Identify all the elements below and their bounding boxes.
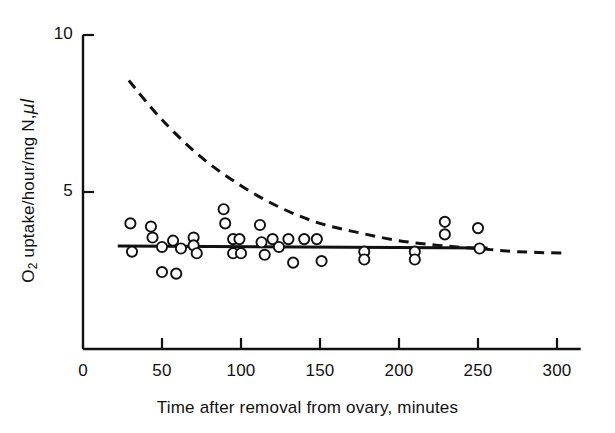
data-point-marker: [256, 237, 266, 247]
x-tick-label: 100: [211, 361, 271, 381]
data-point-marker: [171, 269, 181, 279]
data-point-marker: [147, 232, 157, 242]
scatter-series: [125, 204, 484, 279]
figure-container: O2 uptake/hour/mg N,μl Time after remova…: [0, 0, 615, 433]
data-point-marker: [168, 236, 178, 246]
data-point-marker: [440, 229, 450, 239]
x-tick-label: 50: [132, 361, 192, 381]
x-tick-label: 200: [369, 361, 429, 381]
y-axis-title-subscript: 2: [26, 262, 40, 269]
data-point-marker: [474, 243, 484, 253]
data-point-marker: [260, 250, 270, 260]
data-point-marker: [288, 258, 298, 268]
data-point-marker: [274, 242, 284, 252]
y-tick-label: 10: [21, 24, 73, 44]
data-point-marker: [146, 221, 156, 231]
data-point-marker: [157, 267, 167, 277]
data-point-marker: [234, 234, 244, 244]
x-tick-label: 0: [53, 361, 113, 381]
data-point-marker: [473, 223, 483, 233]
data-point-marker: [255, 220, 265, 230]
data-point-marker: [299, 234, 309, 244]
chart-svg-content: [83, 35, 581, 349]
x-tick-label: 300: [527, 361, 587, 381]
data-point-marker: [127, 247, 137, 257]
data-point-marker: [157, 242, 167, 252]
data-point-marker: [192, 248, 202, 258]
x-tick-label: 250: [448, 361, 508, 381]
data-point-marker: [316, 256, 326, 266]
data-point-marker: [359, 254, 369, 264]
y-tick-label: 5: [21, 181, 73, 201]
x-axis-title: Time after removal from ovary, minutes: [0, 398, 615, 418]
data-point-marker: [312, 234, 322, 244]
data-point-marker: [220, 218, 230, 228]
data-point-marker: [236, 248, 246, 258]
data-point-marker: [125, 218, 135, 228]
data-point-marker: [219, 204, 229, 214]
x-tick-label: 150: [290, 361, 350, 381]
y-axis-title-unit: μl: [18, 98, 38, 114]
data-point-marker: [283, 234, 293, 244]
y-axis-title-prefix: O: [19, 269, 38, 282]
data-point-marker: [410, 254, 420, 264]
data-point-marker: [440, 217, 450, 227]
data-point-marker: [176, 243, 186, 253]
dashed-trend-curve: [129, 81, 567, 254]
